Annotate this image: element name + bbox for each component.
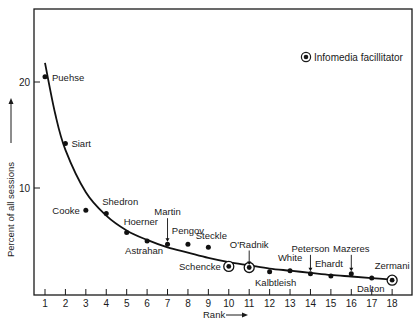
point-dot-icon [165, 242, 170, 247]
point-label: Schencke [179, 261, 221, 272]
y-axis-title: Percent of all sessions [5, 98, 16, 257]
x-tick-label: 4 [103, 298, 109, 309]
point-dot-icon [247, 265, 252, 270]
x-tick-label: 9 [206, 298, 212, 309]
point-label: Astrahan [125, 245, 163, 256]
point-dot-icon [124, 230, 129, 235]
x-tick-label: 10 [223, 298, 235, 309]
y-axis-ticks: 1020 [19, 77, 40, 194]
point-label: Cooke [52, 205, 79, 216]
leader-arrow-icon [308, 268, 312, 272]
data-point: Schencke [179, 261, 234, 272]
point-label: Puehse [52, 72, 84, 83]
point-dot-icon [349, 271, 354, 276]
point-dot-icon [104, 211, 109, 216]
x-tick-label: 16 [346, 298, 358, 309]
x-axis-title: Rank [203, 309, 248, 320]
point-dot-icon [206, 245, 211, 250]
point-label: Siart [71, 138, 91, 149]
point-dot-icon [145, 239, 150, 244]
point-label: Hoerner [124, 216, 158, 227]
y-tick-label: 20 [19, 77, 31, 88]
data-point: Zermani [375, 260, 410, 285]
point-label: Zermani [375, 260, 410, 271]
point-label: Mazeres [333, 243, 370, 254]
point-dot-icon [63, 141, 68, 146]
y-arrowhead-icon [9, 98, 14, 104]
point-dot-icon [43, 74, 48, 79]
data-point: Astrahan [125, 239, 163, 257]
data-point: Hoerner [124, 216, 158, 236]
data-point: Steckle [196, 230, 227, 250]
x-tick-label: 12 [264, 298, 276, 309]
data-point: Siart [63, 138, 91, 149]
point-label: Ehardt [315, 258, 343, 269]
x-tick-label: 13 [284, 298, 296, 309]
point-dot-icon [83, 208, 88, 213]
x-tick-label: 1 [42, 298, 48, 309]
point-dot-icon [288, 268, 293, 273]
point-label: Dalton [357, 283, 384, 294]
leader-arrow-icon [166, 238, 170, 242]
y-axis-label: Percent of all sessions [5, 162, 16, 257]
point-dot-icon [369, 276, 374, 281]
x-tick-label: 11 [244, 298, 255, 309]
point-dot-icon [185, 242, 190, 247]
point-dot-icon [267, 269, 272, 274]
point-label: O'Radnik [230, 239, 269, 250]
point-dot-icon [328, 273, 333, 278]
legend: Infomedia facillitator [301, 52, 403, 63]
x-tick-label: 15 [325, 298, 337, 309]
point-label: Steckle [196, 230, 227, 241]
x-tick-label: 14 [305, 298, 317, 309]
data-points: PuehseSiartCookeShedronHoernerAstrahanMa… [43, 72, 410, 294]
data-point: Cooke [52, 205, 88, 216]
x-axis-label: Rank [203, 309, 225, 320]
point-dot-icon [390, 278, 395, 283]
x-tick-label: 17 [366, 298, 378, 309]
point-label: Shedron [102, 196, 138, 207]
leader-arrow-icon [349, 268, 353, 272]
x-tick-label: 2 [63, 298, 69, 309]
x-tick-label: 3 [83, 298, 89, 309]
x-tick-label: 8 [185, 298, 191, 309]
x-tick-label: 7 [165, 298, 171, 309]
x-tick-label: 5 [124, 298, 130, 309]
point-label: Martin [154, 206, 180, 217]
legend-dot-icon [304, 55, 309, 60]
data-point: Shedron [102, 196, 138, 216]
x-axis-ticks: 123456789101112131415161718 [42, 289, 398, 309]
point-dot-icon [308, 271, 313, 276]
rank-percent-chart: 1020 123456789101112131415161718 PuehseS… [0, 0, 420, 326]
y-tick-label: 10 [19, 183, 31, 194]
point-label: Kalbtleish [255, 277, 296, 288]
x-arrowhead-icon [242, 313, 248, 318]
x-tick-label: 6 [144, 298, 150, 309]
x-tick-label: 18 [387, 298, 399, 309]
point-label: Peterson [291, 243, 329, 254]
legend-label: Infomedia facillitator [314, 52, 404, 63]
point-dot-icon [226, 264, 231, 269]
